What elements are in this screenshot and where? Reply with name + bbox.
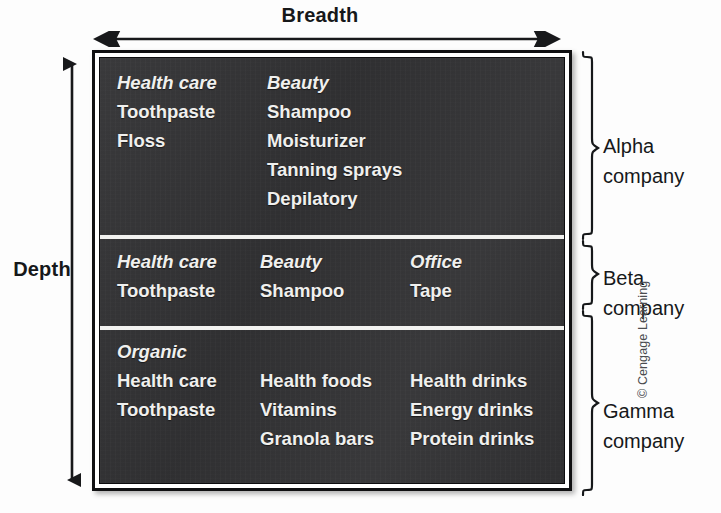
gamma-column-health-drinks: Organic Health drinks Energy drinks Prot…: [410, 337, 534, 453]
copyright-notice: © Cengage Learning: [636, 248, 650, 398]
diagram-canvas: Breadth Depth: [0, 0, 721, 513]
beta-column-beauty: Beauty Shampoo: [260, 247, 344, 305]
product-item: Tape: [410, 276, 462, 305]
product-item: Vitamins: [260, 395, 374, 424]
product-item: Toothpaste: [117, 97, 217, 126]
beta-column-office: Office Tape: [410, 247, 462, 305]
product-item: Toothpaste: [117, 395, 217, 424]
matrix-band-alpha: Health care Toothpaste Floss Beauty Sham…: [100, 58, 564, 235]
column-heading: Health drinks: [410, 366, 534, 395]
company-name: Gamma: [603, 396, 684, 426]
category-label: Office: [410, 247, 462, 276]
product-mix-matrix: Health care Toothpaste Floss Beauty Sham…: [92, 50, 572, 491]
product-item: Toothpaste: [117, 276, 217, 305]
column-heading: Health foods: [260, 366, 374, 395]
company-label-gamma: Gamma company: [603, 396, 684, 456]
company-name: Alpha: [603, 131, 684, 161]
category-label: Beauty: [260, 247, 344, 276]
alpha-column-beauty: Beauty Shampoo Moisturizer Tanning spray…: [267, 68, 402, 213]
column-heading: Health care: [117, 366, 217, 395]
company-braces-icon: [574, 48, 606, 496]
alpha-column-health-care: Health care Toothpaste Floss: [117, 68, 217, 155]
product-item: Moisturizer: [267, 126, 402, 155]
category-label: Beauty: [267, 68, 402, 97]
breadth-axis-label: Breadth: [0, 4, 640, 27]
product-item: Energy drinks: [410, 395, 534, 424]
gamma-column-health-care: Organic Health care Toothpaste: [117, 337, 217, 424]
category-label: Health care: [117, 68, 217, 97]
category-label: Health care: [117, 247, 217, 276]
matrix-band-gamma: Organic Health care Toothpaste Organic H…: [100, 329, 564, 484]
gamma-column-health-foods: Organic Health foods Vitamins Granola ba…: [260, 337, 374, 453]
breadth-double-arrow-icon: [86, 31, 568, 47]
company-suffix: company: [603, 161, 684, 191]
product-item: Shampoo: [260, 276, 344, 305]
product-item: Depilatory: [267, 184, 402, 213]
company-label-alpha: Alpha company: [603, 131, 684, 191]
product-item: Floss: [117, 126, 217, 155]
product-item: Granola bars: [260, 424, 374, 453]
beta-column-health-care: Health care Toothpaste: [117, 247, 217, 305]
product-item: Shampoo: [267, 97, 402, 126]
category-label: Organic: [117, 337, 217, 366]
product-item: Protein drinks: [410, 424, 534, 453]
product-item: Tanning sprays: [267, 155, 402, 184]
matrix-band-beta: Health care Toothpaste Beauty Shampoo Of…: [100, 238, 564, 326]
matrix-interior: Health care Toothpaste Floss Beauty Sham…: [99, 57, 565, 484]
company-suffix: company: [603, 426, 684, 456]
depth-double-arrow-icon: [63, 52, 81, 492]
